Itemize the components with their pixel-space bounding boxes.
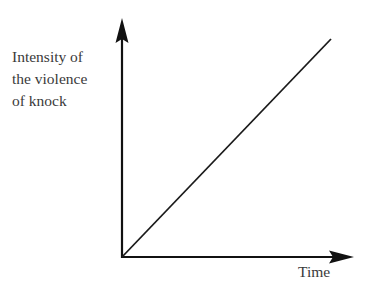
y-axis-label-line-1: Intensity of bbox=[12, 46, 112, 68]
y-axis-label-line-3: of knock bbox=[12, 90, 112, 112]
diagram-canvas bbox=[0, 0, 370, 296]
x-axis-label: Time bbox=[298, 263, 330, 281]
knock-intensity-diagram: Intensity of the violence of knock Time bbox=[0, 0, 370, 296]
y-axis-label: Intensity of the violence of knock bbox=[12, 46, 112, 112]
intensity-line bbox=[122, 39, 331, 257]
y-axis-label-line-2: the violence bbox=[12, 68, 112, 90]
